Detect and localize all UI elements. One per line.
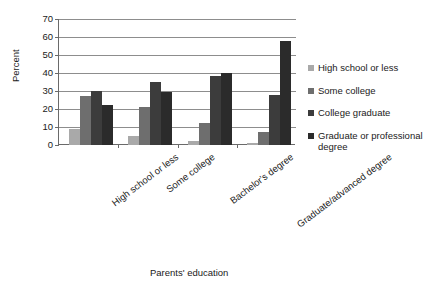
y-axis-title: Percent — [10, 49, 21, 82]
y-axis-tick-label: 50 — [42, 50, 53, 60]
y-axis-tick-label: 0 — [48, 140, 53, 150]
y-axis-tick-label: 60 — [42, 32, 53, 42]
bar — [210, 76, 221, 145]
legend-label: Some college — [318, 85, 376, 97]
legend-swatch — [308, 65, 314, 71]
bar — [199, 123, 210, 146]
x-axis-tick — [178, 144, 179, 148]
legend-swatch — [308, 133, 314, 139]
bar — [280, 41, 291, 145]
y-axis-tick — [55, 145, 59, 146]
legend-entry: College graduate — [308, 107, 440, 119]
y-axis-tick-label: 20 — [42, 104, 53, 114]
bar-group — [247, 19, 291, 145]
bar — [91, 91, 102, 145]
bar — [247, 143, 258, 145]
bar — [69, 129, 80, 145]
plot-area: 010203040506070 — [58, 19, 295, 145]
bars-layer — [59, 19, 296, 145]
legend-entry: Graduate or professional degree — [308, 130, 440, 153]
bar — [102, 105, 113, 145]
bar-group — [69, 19, 113, 145]
bar-group — [128, 19, 172, 145]
bar — [150, 82, 161, 145]
legend-entry: Some college — [308, 85, 440, 97]
bar-group — [188, 19, 232, 145]
y-axis-tick-label: 70 — [42, 14, 53, 24]
bar — [139, 107, 150, 145]
legend-swatch — [308, 88, 314, 94]
y-axis-tick-label: 10 — [42, 122, 53, 132]
bar — [258, 132, 269, 145]
bar — [80, 96, 91, 145]
y-axis-tick-label: 30 — [42, 86, 53, 96]
bar — [188, 141, 199, 145]
bar — [161, 92, 172, 145]
bar-chart-figure: Percent 010203040506070 High school or l… — [0, 0, 442, 296]
bar — [269, 95, 280, 145]
legend-label: College graduate — [318, 107, 390, 119]
x-axis-category-label: Graduate/advanced degree — [295, 152, 394, 230]
legend-swatch — [308, 110, 314, 116]
x-axis-category-label: Bachelor's degree — [228, 152, 295, 206]
bar — [128, 136, 139, 145]
legend-label: High school or less — [318, 62, 398, 74]
legend-entry: High school or less — [308, 62, 440, 74]
chart-legend: High school or lessSome collegeCollege g… — [308, 62, 440, 164]
x-axis-tick — [118, 144, 119, 148]
bar — [221, 73, 232, 145]
x-axis-tick — [237, 144, 238, 148]
legend-label: Graduate or professional degree — [318, 130, 440, 153]
y-axis-tick-label: 40 — [42, 68, 53, 78]
x-axis-title: Parents' education — [150, 267, 228, 278]
